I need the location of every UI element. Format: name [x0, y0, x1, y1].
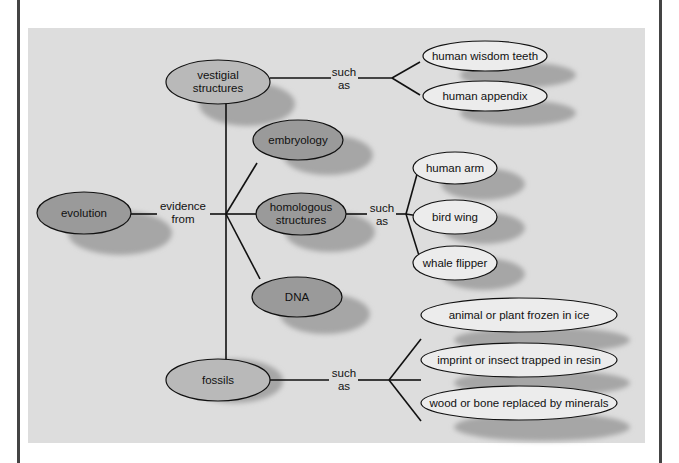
label-animal-plant-frozen: animal or plant frozen in ice	[449, 309, 590, 322]
label-structures: structures	[193, 82, 244, 95]
label-whale-flipper: whale flipper	[423, 257, 488, 270]
label-evidence-from: evidence from	[160, 200, 206, 226]
label-fossils: fossils	[202, 374, 234, 387]
label-from: from	[160, 213, 206, 226]
label-bird-wing: bird wing	[432, 211, 478, 224]
label-such-as-homologous: such as	[370, 202, 394, 228]
label-such: such	[370, 202, 394, 215]
label-vestigial-structures: vestigial structures	[193, 69, 244, 95]
label-embryology: embryology	[268, 134, 327, 147]
label-homologous: homologous	[270, 201, 333, 214]
label-vestigial: vestigial	[193, 69, 244, 82]
label-as: as	[332, 79, 356, 92]
label-evidence: evidence	[160, 200, 206, 213]
label-such-as-fossils: such as	[332, 367, 356, 393]
label-human-appendix: human appendix	[442, 90, 527, 103]
label-such: such	[332, 367, 356, 380]
label-as: as	[332, 380, 356, 393]
label-such: such	[332, 66, 356, 79]
label-structures-2: structures	[270, 214, 333, 227]
label-imprint-insect-resin: imprint or insect trapped in resin	[437, 354, 601, 367]
label-as: as	[370, 215, 394, 228]
label-such-as-vestigial: such as	[332, 66, 356, 92]
label-human-arm: human arm	[426, 162, 484, 175]
label-homologous-structures: homologous structures	[270, 201, 333, 227]
label-evolution: evolution	[61, 207, 107, 220]
label-dna: DNA	[285, 291, 309, 304]
label-wood-bone-minerals: wood or bone replaced by minerals	[430, 397, 609, 410]
label-human-wisdom-teeth: human wisdom teeth	[432, 50, 538, 63]
